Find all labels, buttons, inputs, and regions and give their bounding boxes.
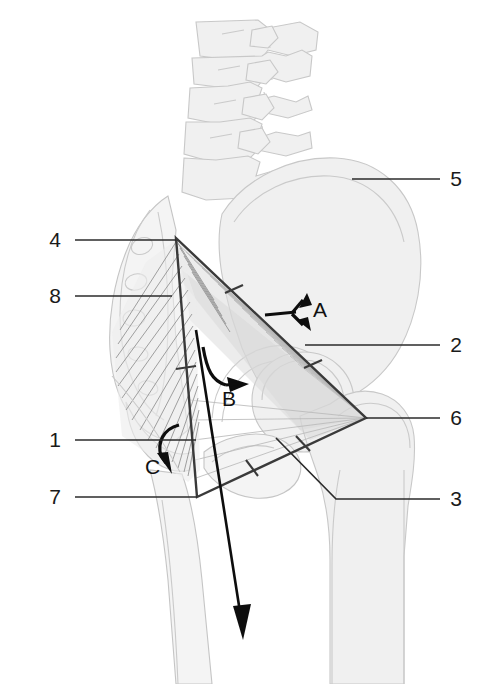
label-4: 4 — [49, 228, 61, 251]
label-1: 1 — [49, 428, 61, 451]
label-C: C — [145, 455, 160, 478]
anatomical-figure: A B C — [0, 0, 488, 684]
label-6: 6 — [450, 406, 462, 429]
label-A: A — [313, 298, 327, 321]
label-7: 7 — [49, 485, 61, 508]
label-5: 5 — [450, 167, 462, 190]
label-B: B — [222, 387, 236, 410]
label-3: 3 — [450, 487, 462, 510]
label-2: 2 — [450, 333, 462, 356]
femur-distal-left — [150, 470, 212, 684]
figure-canvas: A B C — [0, 0, 488, 684]
label-8: 8 — [49, 284, 61, 307]
